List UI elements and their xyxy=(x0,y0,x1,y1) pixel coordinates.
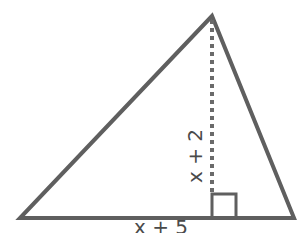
triangle xyxy=(20,16,294,218)
right-angle-marker xyxy=(212,194,236,218)
height-label: x + 2 xyxy=(183,129,207,183)
base-label: x + 5 xyxy=(134,215,188,233)
triangle-diagram: x + 2 x + 5 xyxy=(0,0,307,233)
